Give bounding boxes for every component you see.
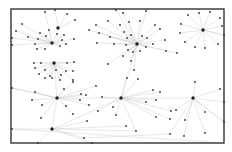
hub-node	[56, 26, 59, 29]
graph-node	[44, 48, 46, 50]
graph-node	[123, 31, 125, 33]
graph-node	[145, 101, 147, 103]
hub-node	[50, 127, 53, 130]
graph-node	[88, 104, 90, 106]
graph-node	[155, 99, 157, 101]
graph-node	[34, 91, 36, 93]
diagram-frame	[11, 9, 224, 143]
graph-node	[139, 50, 141, 52]
graph-node	[66, 62, 68, 64]
graph-node	[95, 24, 97, 26]
edge	[203, 30, 224, 35]
graph-node	[86, 120, 88, 122]
graph-node	[79, 99, 81, 101]
graph-node	[21, 23, 23, 25]
graph-node	[175, 109, 177, 111]
graph-node	[44, 69, 46, 71]
graph-node	[39, 32, 41, 34]
graph-node	[127, 49, 129, 51]
graph-node	[49, 75, 51, 77]
edge	[57, 98, 73, 114]
graph-node	[51, 77, 53, 79]
graph-node	[101, 96, 103, 98]
hub-node	[55, 96, 58, 99]
graph-node	[72, 81, 74, 83]
edge	[137, 44, 177, 53]
graph-node	[73, 38, 75, 40]
graph-node	[183, 135, 185, 137]
graph-node	[15, 30, 17, 32]
graph-node	[40, 62, 42, 64]
graph-node	[194, 46, 196, 48]
graph-node	[165, 50, 167, 52]
graph-node	[63, 88, 65, 90]
edge	[41, 98, 57, 118]
graph-node	[126, 77, 128, 79]
graph-node	[135, 130, 137, 132]
graph-node	[65, 43, 67, 45]
graph-node	[198, 12, 200, 14]
graph-node	[217, 43, 219, 45]
edge	[121, 98, 170, 119]
graph-node	[170, 110, 172, 112]
graph-node	[112, 106, 114, 108]
graph-node	[109, 36, 111, 38]
edge	[52, 98, 57, 129]
graph-node	[33, 62, 35, 64]
graph-node	[204, 111, 206, 113]
graph-node	[44, 11, 46, 13]
graph-node	[133, 69, 135, 71]
graph-node	[31, 99, 33, 101]
graph-node	[55, 69, 57, 71]
edge	[12, 43, 52, 45]
hub-node	[119, 96, 122, 99]
edges-layer	[12, 10, 224, 143]
graph-node	[139, 20, 141, 22]
edge	[55, 10, 58, 28]
graph-node	[204, 132, 206, 134]
graph-node	[34, 67, 36, 69]
edge	[170, 98, 193, 134]
graph-node	[66, 13, 68, 15]
hub-node	[191, 96, 194, 99]
graph-node	[128, 21, 130, 23]
edge	[52, 129, 136, 131]
graph-node	[219, 17, 221, 19]
graph-node	[113, 43, 115, 45]
graph-node	[40, 117, 42, 119]
graph-node	[176, 52, 178, 54]
graph-node	[122, 12, 124, 14]
graph-node	[152, 43, 154, 45]
edge	[193, 82, 195, 98]
graph-node	[97, 110, 99, 112]
graph-node	[209, 11, 211, 13]
graph-node	[107, 20, 109, 22]
graph-node	[145, 46, 147, 48]
graph-node	[85, 94, 87, 96]
graph-node	[98, 32, 100, 34]
graph-node	[169, 118, 171, 120]
graph-node	[48, 29, 50, 31]
graph-node	[107, 63, 109, 65]
graph-node	[80, 93, 82, 95]
graph-node	[95, 85, 97, 87]
hub-node	[201, 28, 204, 31]
graph-node	[59, 45, 61, 47]
graph-node	[119, 24, 121, 26]
graph-node	[59, 79, 61, 81]
edge	[137, 40, 165, 44]
edge	[120, 25, 137, 44]
graph-node	[122, 55, 124, 57]
graph-node	[36, 48, 38, 50]
edge	[52, 129, 92, 143]
graph-node	[132, 51, 134, 53]
graph-node	[63, 34, 65, 36]
edge	[203, 30, 218, 44]
graph-node	[44, 77, 46, 79]
edge	[12, 129, 224, 143]
graph-node	[126, 37, 128, 39]
edge	[193, 98, 205, 133]
graph-node	[56, 33, 58, 35]
graph-node	[164, 39, 166, 41]
edge	[50, 63, 54, 76]
